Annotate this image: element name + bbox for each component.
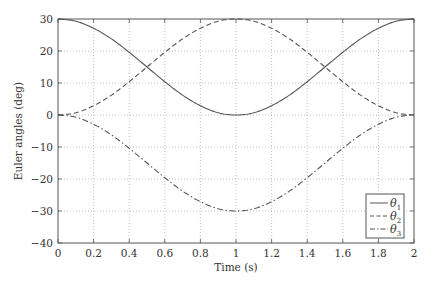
x-tick-label: 1.6 <box>334 247 351 259</box>
data-series <box>58 19 414 211</box>
x-tick-label: 1 <box>233 247 240 259</box>
y-tick-label: 20 <box>40 45 53 57</box>
x-tick-label: 0.6 <box>156 247 173 259</box>
x-tick-label: 1.2 <box>263 247 280 259</box>
x-tick-label: 0.8 <box>192 247 209 259</box>
euler-angles-chart: 00.20.40.60.811.21.41.61.823020100−10−20… <box>0 0 434 285</box>
x-tick-label: 0 <box>55 247 62 259</box>
x-axis-label: Time (s) <box>214 261 257 273</box>
y-tick-label: 10 <box>40 77 53 89</box>
grid-lines <box>58 19 414 243</box>
y-tick-label: −10 <box>31 141 53 153</box>
y-tick-label: 30 <box>40 13 53 25</box>
legend-subscript: 3 <box>397 230 401 238</box>
x-tick-label: 1.4 <box>299 247 316 259</box>
legend: θ1 θ2 θ3 <box>366 194 404 238</box>
y-tick-label: 0 <box>46 109 53 121</box>
x-tick-label: 1.8 <box>370 247 387 259</box>
y-tick-label: −20 <box>31 173 53 185</box>
x-tick-label: 0.4 <box>121 247 138 259</box>
y-axis-label: Euler angles (deg) <box>12 82 24 180</box>
x-tick-label: 0.2 <box>85 247 102 259</box>
y-tick-label: −30 <box>31 205 53 217</box>
y-tick-label: −40 <box>31 237 53 249</box>
x-tick-label: 2 <box>411 247 418 259</box>
legend-subscript: 1 <box>397 204 401 212</box>
legend-subscript: 2 <box>397 217 401 225</box>
